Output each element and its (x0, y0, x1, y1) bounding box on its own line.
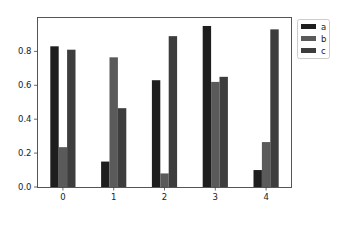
plot-area-frame (38, 18, 292, 188)
x-tick-label: 0 (60, 192, 65, 202)
bar-c-3 (220, 77, 228, 187)
bar-b-3 (211, 82, 219, 187)
legend-swatch-c (301, 48, 316, 53)
bar-chart: 0.00.20.40.60.8 01234 abc (0, 0, 346, 226)
bar-a-4 (254, 170, 262, 187)
bar-b-0 (59, 147, 67, 187)
bar-b-2 (160, 173, 168, 187)
y-tick-label: 0.8 (18, 46, 32, 56)
x-axis: 01234 (60, 187, 269, 202)
bar-c-1 (118, 108, 126, 187)
x-tick-label: 2 (162, 192, 167, 202)
x-tick-label: 1 (111, 192, 116, 202)
x-tick-label: 4 (263, 192, 268, 202)
bar-b-4 (262, 142, 270, 187)
legend-label-a: a (321, 22, 326, 32)
bar-b-1 (110, 57, 118, 187)
y-axis: 0.00.20.40.60.8 (18, 46, 38, 192)
legend-label-c: c (321, 46, 326, 56)
bars-group (50, 26, 278, 187)
bar-a-0 (50, 46, 58, 187)
bar-c-4 (270, 29, 278, 187)
legend-label-b: b (321, 34, 326, 44)
legend: abc (298, 20, 330, 59)
bar-a-1 (101, 162, 109, 187)
legend-swatch-a (301, 24, 316, 29)
y-tick-label: 0.0 (18, 182, 32, 192)
bar-a-2 (152, 80, 160, 187)
bar-c-0 (67, 50, 75, 187)
y-tick-label: 0.4 (18, 114, 32, 124)
bar-a-3 (203, 26, 211, 187)
x-tick-label: 3 (213, 192, 218, 202)
y-tick-label: 0.6 (18, 80, 32, 90)
y-tick-label: 0.2 (18, 148, 32, 158)
bar-c-2 (169, 36, 177, 187)
legend-swatch-b (301, 36, 316, 41)
